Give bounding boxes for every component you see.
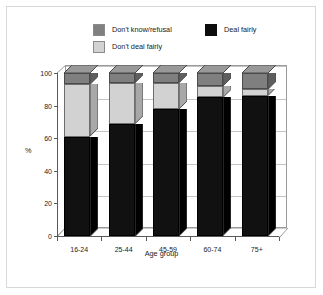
bar-segment: [197, 73, 223, 86]
bar-segment: [153, 73, 179, 83]
bar-segment-face: [242, 96, 268, 236]
bar-segment: [64, 84, 90, 136]
bar-segment: [64, 73, 90, 84]
bar-segment-side: [90, 84, 98, 136]
bar-segment-face: [242, 89, 268, 96]
bar-segment: [109, 73, 135, 83]
bar-segment-top: [153, 65, 187, 73]
bar-segment-face: [109, 73, 135, 83]
bar-segment: [197, 97, 223, 236]
y-axis-tick: [54, 138, 58, 139]
bar-segment: [242, 73, 268, 89]
bar-segment-face: [197, 86, 223, 97]
y-axis-tick: [54, 203, 58, 204]
bar-segment: [153, 83, 179, 109]
y-axis-tick-label: 100: [40, 70, 52, 77]
bar-segment-face: [197, 97, 223, 236]
bar-segment-side: [268, 73, 276, 89]
bar-segment-side: [135, 73, 143, 83]
x-axis-tick: [57, 237, 58, 241]
bar-segment-face: [153, 73, 179, 83]
x-axis-tick: [190, 237, 191, 241]
y-axis-tick-label: 60: [44, 135, 52, 142]
y-axis-tick: [54, 73, 58, 74]
bar-segment-top: [64, 65, 98, 73]
bar-segment: [197, 86, 223, 97]
bar-segment-face: [153, 83, 179, 109]
bars-container: [57, 73, 279, 236]
y-axis-tick-label: 80: [44, 102, 52, 109]
bar-segment-side: [90, 137, 98, 236]
bar-segment-face: [64, 137, 90, 236]
bar-segment: [64, 137, 90, 236]
bar-segment-side: [135, 124, 143, 236]
bar-segment-face: [197, 73, 223, 86]
x-axis-title: Age group: [0, 250, 323, 257]
bar-segment-face: [109, 83, 135, 124]
bar-segment-side: [179, 73, 187, 83]
bar-segment-side: [90, 73, 98, 84]
y-axis: 020406080100: [57, 73, 58, 236]
x-axis-tick: [101, 237, 102, 241]
y-axis-tick: [54, 171, 58, 172]
chart-figure: Don't know/refusal Don't deal fairly Dea…: [0, 0, 323, 295]
bar-segment: [109, 83, 135, 124]
bar-segment-side: [268, 96, 276, 236]
bar-segment-face: [64, 84, 90, 136]
x-axis: 16-2425-4445-5960-7475+: [57, 236, 279, 237]
bar-segment-side: [179, 83, 187, 109]
y-axis-tick-label: 40: [44, 167, 52, 174]
bar-segment-side: [223, 73, 231, 86]
bar-segment-face: [153, 109, 179, 236]
x-axis-tick: [279, 237, 280, 241]
bar-segment: [242, 89, 268, 96]
bar-segment-face: [64, 73, 90, 84]
y-axis-title: %: [25, 147, 32, 154]
bar-segment-top: [242, 65, 276, 73]
bar-segment-side: [223, 86, 231, 97]
bar-segment-side: [223, 97, 231, 236]
bar-segment: [109, 124, 135, 236]
x-axis-tick: [235, 237, 236, 241]
x-axis-tick: [146, 237, 147, 241]
y-axis-tick: [54, 106, 58, 107]
bar-segment-top: [197, 65, 231, 73]
y-axis-tick-label: 20: [44, 200, 52, 207]
bar-segment-side: [268, 89, 276, 96]
bar-segment-side: [135, 83, 143, 124]
bar-segment-top: [109, 65, 143, 73]
bar-segment: [242, 96, 268, 236]
y-axis-tick-label: 0: [48, 233, 52, 240]
bar-segment-face: [242, 73, 268, 89]
bar-segment: [153, 109, 179, 236]
bar-segment-side: [179, 109, 187, 236]
plot-area: 020406080100 16-2425-4445-5960-7475+ % A…: [0, 0, 323, 295]
bar-segment-face: [109, 124, 135, 236]
